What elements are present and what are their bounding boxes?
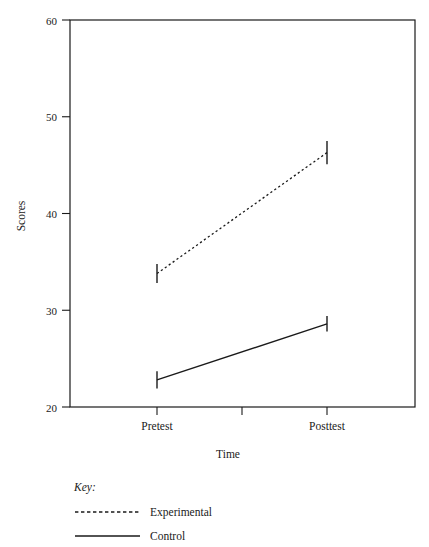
series-experimental	[157, 141, 327, 283]
y-tick-label-60: 60	[46, 15, 58, 27]
x-tick-label-pretest: Pretest	[141, 420, 173, 432]
y-tick-label-30: 30	[46, 305, 58, 317]
y-tick-label-40: 40	[46, 208, 58, 220]
y-axis-tick-labels: 60 50 40 30 20	[46, 15, 58, 414]
x-axis-ticks	[157, 407, 327, 415]
y-tick-label-20: 20	[46, 402, 58, 414]
plot-frame	[70, 20, 415, 407]
legend-label-experimental: Experimental	[150, 506, 212, 519]
y-axis-title: Scores	[15, 200, 27, 231]
figure-container: 60 50 40 30 20 Pretest Posttest Time Sco…	[0, 0, 429, 547]
legend-label-control: Control	[150, 530, 185, 542]
x-axis-tick-labels: Pretest Posttest	[141, 420, 345, 432]
legend-title: Key:	[73, 481, 96, 494]
y-tick-label-50: 50	[46, 111, 58, 123]
legend: Key: Experimental Control	[73, 481, 212, 542]
y-axis-ticks	[62, 20, 70, 407]
x-axis-title: Time	[216, 448, 240, 460]
line-chart: 60 50 40 30 20 Pretest Posttest Time Sco…	[0, 0, 429, 547]
series-control	[157, 316, 327, 389]
x-tick-label-posttest: Posttest	[309, 420, 346, 432]
axis-titles: Time Scores	[15, 200, 240, 460]
